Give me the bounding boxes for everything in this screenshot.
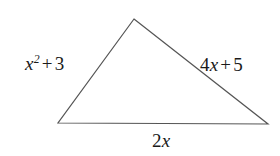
- left-exponent: 2: [34, 53, 40, 66]
- left-constant: 3: [55, 53, 65, 74]
- bottom-coefficient: 2: [152, 130, 162, 151]
- left-variable: x: [25, 53, 34, 74]
- side-label-bottom: 2x: [152, 131, 170, 150]
- left-operator: +: [40, 53, 55, 74]
- triangle-figure: x2+3 4x+5 2x: [0, 0, 280, 156]
- right-coefficient: 4: [200, 54, 210, 75]
- side-label-left: x2+3: [25, 54, 64, 73]
- bottom-variable: x: [162, 130, 171, 151]
- side-label-right: 4x+5: [200, 55, 243, 74]
- right-operator: +: [218, 54, 233, 75]
- right-constant: 5: [233, 54, 243, 75]
- triangle-shape: [0, 0, 280, 156]
